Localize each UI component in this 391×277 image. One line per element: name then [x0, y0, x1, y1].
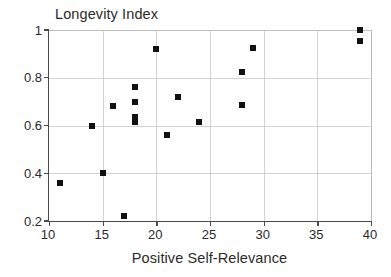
x-axis-tick-label: 25 — [202, 228, 216, 241]
scatter-chart-figure: Longevity Index 0.20.40.60.81 1015202530… — [0, 0, 391, 277]
x-axis-title: Positive Self-Relevance — [48, 250, 371, 267]
data-point — [132, 119, 138, 125]
y-axis-tick — [44, 220, 49, 221]
y-gridline — [49, 30, 371, 31]
y-gridline — [49, 126, 371, 127]
x-axis-tick — [103, 221, 104, 226]
data-point — [57, 180, 63, 186]
data-point — [357, 38, 363, 44]
x-axis-tick-label: 35 — [309, 228, 323, 241]
x-axis-tick-label: 40 — [363, 228, 377, 241]
y-gridline — [49, 173, 371, 174]
x-axis-tick-label: 10 — [41, 228, 55, 241]
data-point — [121, 213, 127, 219]
data-point — [153, 46, 159, 52]
data-point — [239, 102, 245, 108]
y-axis-tick-label: 0.8 — [24, 71, 42, 84]
x-axis-tick-label: 20 — [148, 228, 162, 241]
data-point — [175, 94, 181, 100]
data-point — [110, 103, 116, 109]
data-point — [132, 99, 138, 105]
plot-area — [48, 30, 371, 222]
x-axis-tick — [371, 221, 372, 226]
x-axis-tick-label: 30 — [255, 228, 269, 241]
data-point — [89, 123, 95, 129]
data-point — [164, 132, 170, 138]
x-axis-tick — [156, 221, 157, 226]
x-axis-tick — [317, 221, 318, 226]
data-point — [357, 27, 363, 33]
y-axis-tick-label: 1 — [35, 24, 42, 37]
y-axis-tick — [44, 77, 49, 78]
y-gridline — [49, 78, 371, 79]
x-axis-tick — [264, 221, 265, 226]
x-gridline — [371, 30, 372, 221]
data-point — [196, 119, 202, 125]
x-axis-tick — [210, 221, 211, 226]
y-axis-tick-label: 0.6 — [24, 119, 42, 132]
data-point — [239, 69, 245, 75]
x-axis-tick — [49, 221, 50, 226]
y-axis-tick-labels: 0.20.40.60.81 — [0, 30, 42, 222]
data-point — [132, 84, 138, 90]
chart-title: Longevity Index — [55, 6, 158, 23]
data-point — [250, 45, 256, 51]
y-axis-tick — [44, 173, 49, 174]
data-point — [100, 170, 106, 176]
y-axis-tick-label: 0.2 — [24, 215, 42, 228]
y-axis-tick-label: 0.4 — [24, 167, 42, 180]
x-axis-tick-label: 15 — [94, 228, 108, 241]
x-axis-tick-labels: 10152025303540 — [48, 228, 371, 244]
y-axis-tick — [44, 125, 49, 126]
y-axis-tick — [44, 29, 49, 30]
